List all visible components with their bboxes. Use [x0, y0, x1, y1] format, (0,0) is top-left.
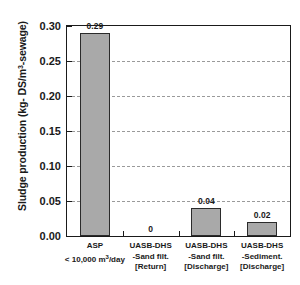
bar-value-label: 0	[148, 224, 153, 234]
y-axis-tick	[67, 201, 72, 202]
x-axis-category-label: UASB-DHS-Sediment.[Discharge]	[240, 241, 284, 273]
y-axis-tick-label: 0.15	[40, 125, 61, 137]
y-axis-title: Sludge production (kg- DS/m3-sewage)	[16, 1, 28, 231]
x-axis-category-line: -Sand filt.	[130, 252, 172, 263]
y-axis-tick-label: 0.00	[40, 230, 61, 242]
y-axis-title-exponent: 3	[17, 65, 24, 69]
y-axis-title-suffix: -sewage)	[16, 21, 28, 65]
x-axis-category-line: UASB-DHS	[130, 241, 172, 252]
x-axis-category-line: UASB-DHS	[184, 241, 228, 252]
y-axis-title-prefix: Sludge production (kg- DS/m	[16, 69, 28, 211]
x-axis-category-line: UASB-DHS	[240, 241, 284, 252]
bar-value-label: 0.29	[87, 21, 104, 31]
x-axis-category-line: < 10,000 m3/day	[65, 252, 125, 265]
bar	[191, 208, 221, 236]
y-axis-tick-label: 0.20	[40, 90, 61, 102]
x-axis-category-label: ASP< 10,000 m3/day	[65, 241, 125, 265]
bar	[247, 222, 277, 236]
y-axis-tick-label: 0.25	[40, 55, 61, 67]
x-axis-tick	[234, 231, 235, 236]
y-axis-tick	[67, 166, 72, 167]
bar-value-label: 0.02	[254, 210, 271, 220]
y-axis-tick	[67, 61, 72, 62]
x-axis-category-line: [Discharge]	[184, 262, 228, 273]
x-axis-tick	[123, 231, 124, 236]
bar-chart-figure: Sludge production (kg- DS/m3-sewage) 0.0…	[0, 0, 300, 285]
x-axis-category-line: -Sand filt.	[184, 252, 228, 263]
y-axis-tick-label: 0.10	[40, 160, 61, 172]
y-axis-tick	[67, 96, 72, 97]
y-axis-tick-label: 0.05	[40, 195, 61, 207]
plot-area: 0.000.050.100.150.200.250.300.29ASP< 10,…	[66, 25, 291, 237]
x-axis-category-line: [Return]	[130, 262, 172, 273]
x-axis-category-label: UASB-DHS-Sand filt.[Return]	[130, 241, 172, 273]
y-axis-tick-label: 0.30	[40, 20, 61, 32]
y-axis-tick	[67, 131, 72, 132]
x-axis-category-label: UASB-DHS-Sand filt.[Discharge]	[184, 241, 228, 273]
bar	[80, 33, 110, 236]
x-axis-category-line: [Discharge]	[240, 262, 284, 273]
x-axis-category-line: -Sediment.	[240, 252, 284, 263]
x-axis-category-line: ASP	[65, 241, 125, 252]
x-axis-tick	[179, 231, 180, 236]
y-axis-tick	[67, 26, 72, 27]
bar-value-label: 0.04	[198, 196, 215, 206]
